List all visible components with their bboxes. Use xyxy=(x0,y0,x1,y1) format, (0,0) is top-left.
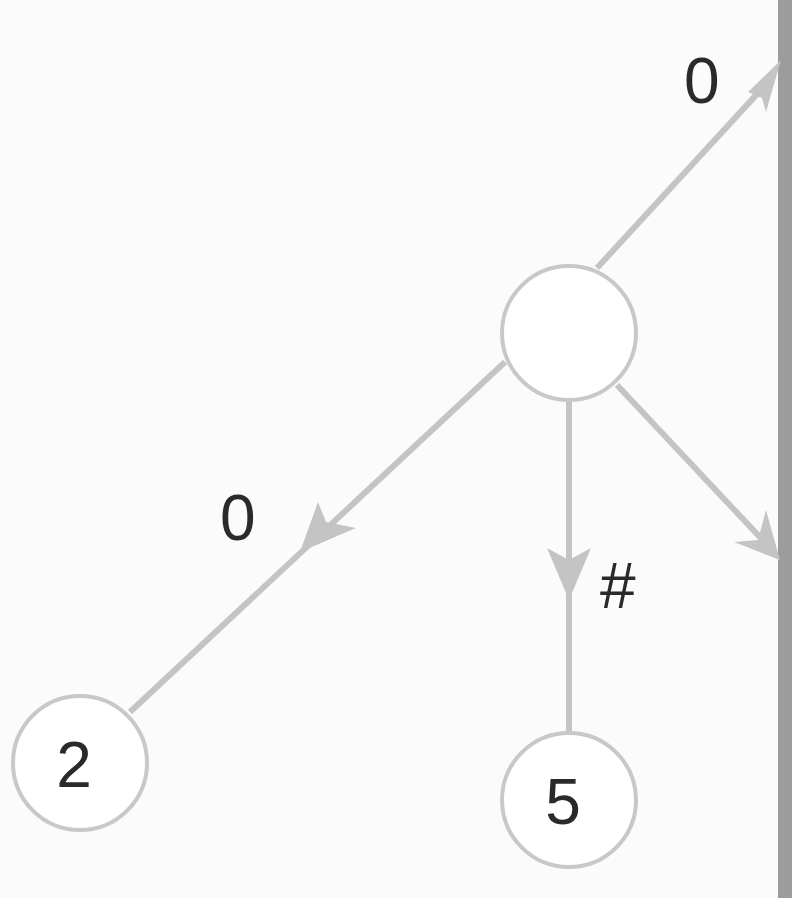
edge-center-to-top-right: 0 xyxy=(597,45,781,268)
node-left-child-label: 2 xyxy=(56,729,92,801)
node-middle-child-label: 5 xyxy=(545,766,581,838)
edge-label-top-right: 0 xyxy=(684,45,720,117)
edge-center-to-middle-child: # xyxy=(547,402,636,733)
edge-center-to-left-child: 0 xyxy=(130,362,505,712)
node-center xyxy=(502,266,636,400)
edge-center-to-right xyxy=(617,385,780,560)
node-left-child: 2 xyxy=(13,696,147,830)
page-edge-bar xyxy=(778,0,792,898)
edge-label-left: 0 xyxy=(220,482,256,554)
tree-diagram: 0 0 # 2 5 xyxy=(0,0,792,898)
arrowhead-icon xyxy=(748,60,781,112)
node-middle-child: 5 xyxy=(502,733,636,867)
edge-label-middle: # xyxy=(600,550,636,622)
